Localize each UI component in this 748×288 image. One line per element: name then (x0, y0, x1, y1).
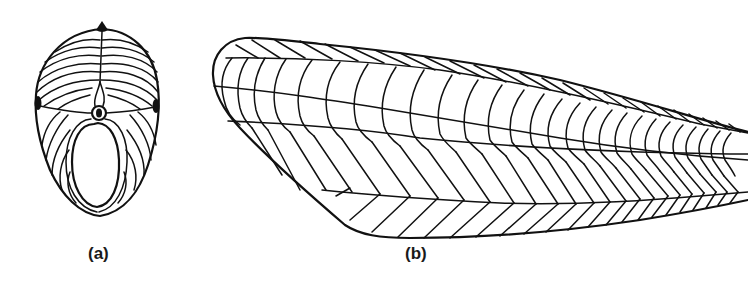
cross-section-drawing (35, 21, 160, 216)
panel-label-a: (a) (88, 244, 109, 264)
figure (0, 0, 748, 288)
lateral-view-drawing (213, 38, 748, 238)
panel-label-b: (b) (405, 244, 427, 264)
